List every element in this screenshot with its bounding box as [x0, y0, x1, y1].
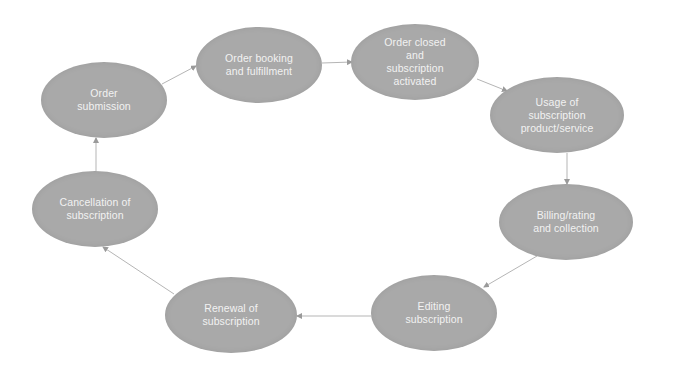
- node-order-closed: Order closed and subscription activated: [351, 24, 479, 100]
- edge-renewal-to-cancellation: [103, 247, 174, 294]
- node-label: Order closed and subscription activated: [384, 36, 445, 88]
- node-label: Editing subscription: [405, 300, 462, 326]
- node-editing: Editing subscription: [371, 275, 497, 351]
- node-label: Order booking and fulfillment: [225, 52, 293, 78]
- edge-order-booking-to-order-closed: [322, 62, 352, 63]
- node-cancellation: Cancellation of subscription: [32, 171, 158, 247]
- edge-order-closed-to-usage: [477, 79, 507, 91]
- edge-order-submission-to-order-booking: [162, 66, 196, 84]
- node-order-booking: Order booking and fulfillment: [196, 27, 322, 103]
- node-label: Renewal of subscription: [202, 302, 259, 328]
- node-order-submission: Order submission: [41, 62, 167, 138]
- node-billing: Billing/rating and collection: [499, 184, 633, 260]
- subscription-lifecycle-diagram: Order submission Order booking and fulfi…: [0, 0, 673, 372]
- node-usage: Usage of subscription product/service: [490, 77, 624, 153]
- node-label: Order submission: [77, 87, 131, 113]
- node-label: Billing/rating and collection: [533, 209, 599, 235]
- node-label: Cancellation of subscription: [60, 196, 131, 222]
- node-label: Usage of subscription product/service: [521, 96, 594, 135]
- edge-billing-to-editing: [484, 256, 537, 287]
- node-renewal: Renewal of subscription: [165, 277, 297, 353]
